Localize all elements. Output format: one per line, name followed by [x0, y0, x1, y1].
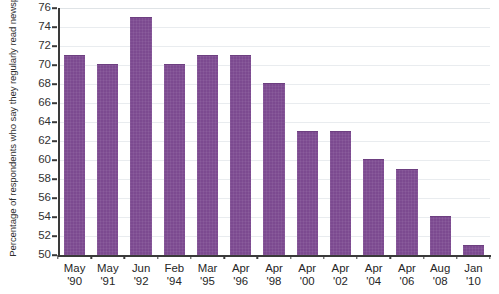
y-axis-tick-mark: [52, 45, 57, 47]
y-axis-tick-mark: [52, 26, 57, 28]
x-axis-tick-label: Apr'06: [398, 262, 416, 288]
bar: [330, 131, 351, 256]
x-axis-tick-mark: [190, 255, 191, 259]
bar-chart-figure: Percentage of respondents who say they r…: [0, 0, 499, 294]
x-axis-tick-label: Aug'08: [430, 262, 450, 288]
x-axis-tick-mark: [456, 255, 457, 259]
x-axis-tick-mark: [390, 255, 391, 259]
x-axis-tick-label: Jan'10: [464, 262, 482, 288]
x-axis-tick-label: Apr'00: [298, 262, 316, 288]
y-axis-tick-mark: [52, 121, 57, 123]
y-axis-tick-mark: [52, 102, 57, 104]
bar: [130, 17, 151, 256]
x-axis-tick-label: Apr'96: [232, 262, 250, 288]
x-axis-tick-mark: [57, 255, 58, 259]
x-axis-tick-label: Jun'92: [132, 262, 150, 288]
y-axis-tick-mark: [52, 216, 57, 218]
x-axis-tick-mark: [489, 255, 490, 259]
x-axis-tick-mark: [290, 255, 291, 259]
plot-area: 5052545658606264666870727476: [58, 8, 490, 255]
bar: [297, 131, 318, 256]
y-axis-tick-mark: [52, 235, 57, 237]
y-axis-tick-mark: [52, 64, 57, 66]
y-axis-tick-mark: [52, 140, 57, 142]
y-axis-title: Percentage of respondents who say they r…: [0, 0, 26, 262]
x-axis-tick-mark: [223, 255, 224, 259]
y-axis-tick-mark: [52, 178, 57, 180]
x-axis-tick-label: Feb'94: [164, 262, 184, 288]
bar: [164, 64, 185, 255]
y-axis-tick-mark: [52, 159, 57, 161]
x-axis-tick-label: Apr'02: [332, 262, 350, 288]
bar: [64, 55, 85, 256]
x-axis-tick-mark: [423, 255, 424, 259]
x-axis-tick-mark: [323, 255, 324, 259]
bar: [263, 83, 284, 255]
x-axis-tick-label: Apr'98: [265, 262, 283, 288]
x-axis-tick-mark: [91, 255, 92, 259]
x-axis-tick-label: May'90: [64, 262, 86, 288]
y-axis-tick-mark: [52, 254, 57, 256]
x-axis-tick-mark: [124, 255, 125, 259]
y-axis-title-text: Percentage of respondents who say they r…: [7, 5, 18, 257]
bar: [97, 64, 118, 255]
y-axis-tick-mark: [52, 7, 57, 9]
x-axis-tick-label: Apr'04: [365, 262, 383, 288]
y-axis-tick-mark: [52, 197, 57, 199]
x-axis-tick-labels: May'90May'91Jun'92Feb'94Mar'95Apr'96Apr'…: [58, 258, 491, 292]
bar: [463, 245, 484, 256]
x-axis-tick-label: Mar'95: [198, 262, 218, 288]
x-axis-tick-label: May'91: [97, 262, 119, 288]
bar: [363, 159, 384, 255]
bar: [230, 55, 251, 256]
bar: [197, 55, 218, 256]
y-axis-tick-mark: [52, 83, 57, 85]
x-axis-tick-mark: [157, 255, 158, 259]
y-axis-line: [58, 8, 60, 256]
x-axis-tick-mark: [257, 255, 258, 259]
bar-series: [58, 8, 490, 255]
bar: [396, 169, 417, 256]
bar: [430, 216, 451, 255]
x-axis-tick-mark: [356, 255, 357, 259]
